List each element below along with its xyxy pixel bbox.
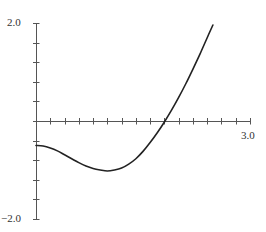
chart-area: 2.0 −2.0 3.0 bbox=[0, 0, 266, 232]
x-axis-max-label: 3.0 bbox=[241, 130, 255, 141]
function-curve bbox=[36, 25, 213, 171]
y-axis-max-label: 2.0 bbox=[7, 17, 21, 28]
y-axis-min-label: −2.0 bbox=[1, 213, 21, 224]
plot-svg bbox=[0, 0, 266, 232]
axes bbox=[33, 23, 251, 220]
